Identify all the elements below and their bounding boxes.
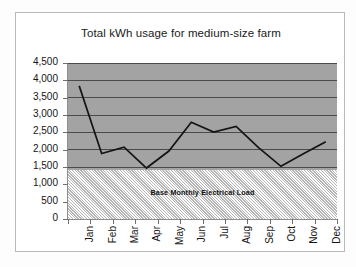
x-axis-tick — [247, 219, 248, 224]
x-axis-tick — [180, 219, 181, 224]
x-axis-tick-label-aug: Aug — [241, 226, 252, 244]
x-axis-tick-label-sep: Sep — [264, 226, 275, 244]
chart-title: Total kWh usage for medium-size farm — [16, 27, 346, 39]
x-axis-tick — [225, 219, 226, 224]
x-axis-tick — [292, 219, 293, 224]
x-axis-tick — [315, 219, 316, 224]
y-axis-tick-label: 2,000 — [14, 143, 58, 154]
y-axis-tick-label: 2,500 — [14, 125, 58, 136]
y-axis-tick-label: 3,500 — [14, 91, 58, 102]
x-axis-tick-label-mar: Mar — [129, 226, 140, 243]
x-axis-tick — [68, 219, 69, 224]
x-axis-tick — [158, 219, 159, 224]
plot-area: Base Monthly Electrical Load — [68, 63, 337, 219]
x-axis-tick-label-dec: Dec — [331, 226, 342, 244]
x-axis-tick — [135, 219, 136, 224]
x-axis-tick-label-feb: Feb — [107, 226, 118, 243]
x-axis-tick-label-jun: Jun — [196, 226, 207, 242]
x-axis-tick-label-jul: Jul — [219, 226, 230, 239]
y-axis-tick-label: 1,000 — [14, 177, 58, 188]
y-axis-tick-label: 0 — [14, 212, 58, 223]
x-axis-tick — [270, 219, 271, 224]
y-axis-tick-label: 500 — [14, 195, 58, 206]
x-axis-tick-label-oct: Oct — [286, 226, 297, 242]
x-axis-tick-label-may: May — [174, 226, 185, 245]
x-axis-tick — [337, 219, 338, 224]
x-axis-tick — [203, 219, 204, 224]
x-axis-tick-label-nov: Nov — [308, 226, 319, 244]
y-axis-tick-label: 4,500 — [14, 56, 58, 67]
y-axis-tick-label: 3,000 — [14, 108, 58, 119]
x-axis-tick-label-apr: Apr — [151, 226, 162, 242]
y-axis-tick-label: 4,000 — [14, 73, 58, 84]
chart-card: Total kWh usage for medium-size farm 4,5… — [15, 12, 345, 252]
x-axis-tick-label-jan: Jan — [84, 226, 95, 242]
x-axis-tick — [113, 219, 114, 224]
x-axis-tick — [90, 219, 91, 224]
series-line-total-kwh-usage — [68, 63, 337, 219]
y-axis-tick-label: 1,500 — [14, 160, 58, 171]
